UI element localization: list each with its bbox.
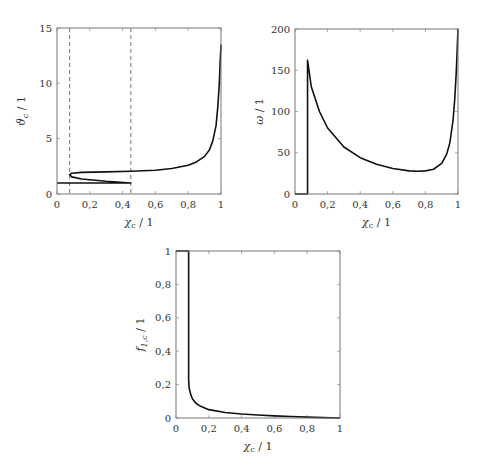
x-tick-label: 0,4 [115,199,131,210]
x-tick-label: 0,2 [82,199,98,210]
chart-omega: 00,20,40,60,81050100150200χc / 1ω / 1 [253,24,461,231]
plot-frame [176,251,340,418]
x-axis-label: χc / 1 [243,440,273,454]
y-axis-label: ω / 1 [253,98,266,125]
x-tick-label: 0,4 [352,199,368,210]
data-series-f1c [176,251,340,418]
figure-canvas: 00,20,40,60,81051015χc / 1ϑc / 100,20,40… [0,0,480,468]
y-tick-label: 150 [271,65,290,76]
x-tick-label: 0,6 [266,423,282,434]
y-tick-label: 0 [165,413,171,424]
y-tick-label: 100 [271,106,290,117]
y-axis-label: f1,c / 1 [134,318,149,353]
x-tick-label: 0,8 [299,423,315,434]
x-tick-label: 1 [455,199,461,210]
x-axis-label: χc / 1 [124,216,154,230]
data-series-omega [295,29,458,194]
x-axis-label: χc / 1 [361,216,391,230]
data-series-theta [57,45,221,183]
x-tick-label: 1 [218,199,224,210]
x-tick-label: 0 [292,199,298,210]
y-tick-label: 0,2 [155,379,171,390]
x-tick-label: 0,6 [147,199,163,210]
y-tick-label: 5 [46,133,52,144]
y-tick-label: 0 [46,189,52,200]
y-tick-label: 0 [284,189,290,200]
plot-frame [57,28,221,194]
x-tick-label: 0,2 [201,423,217,434]
x-tick-label: 1 [337,423,343,434]
y-axis-label: ϑc / 1 [15,96,30,126]
y-tick-label: 0,8 [155,279,171,290]
x-tick-label: 0,8 [180,199,196,210]
x-tick-label: 0,6 [385,199,401,210]
x-tick-label: 0 [54,199,60,210]
y-tick-label: 15 [39,23,52,34]
y-tick-label: 0,6 [155,312,171,323]
chart-theta: 00,20,40,60,81051015χc / 1ϑc / 1 [15,23,224,231]
y-tick-label: 10 [39,78,52,89]
chart-f1c: 00,20,40,60,8100,20,40,60,81χc / 1f1,c /… [134,246,343,455]
x-tick-label: 0 [173,423,179,434]
y-tick-label: 200 [271,24,290,35]
y-tick-label: 1 [165,246,171,257]
x-tick-label: 0,8 [417,199,433,210]
y-tick-label: 0,4 [155,346,171,357]
x-tick-label: 0,4 [234,423,250,434]
x-tick-label: 0,2 [320,199,336,210]
y-tick-label: 50 [277,147,290,158]
